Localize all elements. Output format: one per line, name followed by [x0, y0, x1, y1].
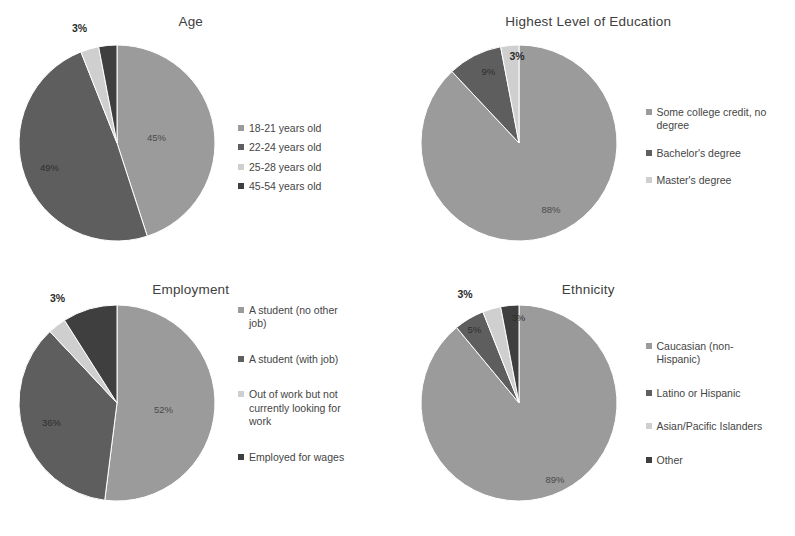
legend-item[interactable]: Bachelor's degree — [646, 147, 767, 160]
legend-label: A student (with job) — [249, 353, 338, 366]
legend-label: Caucasian (non- Hispanic) — [657, 340, 734, 367]
plot-area-education: 88% 9% 3% Some college credit, no degree… — [420, 44, 767, 242]
chart-title-age: Age — [0, 14, 390, 29]
legend-swatch-icon — [646, 343, 652, 349]
plot-area-ethnicity: 89% 5% 3% 3% Caucasian (non- Hispanic) L… — [420, 304, 763, 502]
legend-education: Some college credit, no degree Bachelor'… — [646, 106, 767, 202]
legend-ethnicity: Caucasian (non- Hispanic) Latino or Hisp… — [646, 340, 763, 487]
legend-label: Latino or Hispanic — [657, 387, 741, 400]
legend-age: 18-21 years old 22-24 years old 25-28 ye… — [238, 122, 321, 200]
pie-svg-ethnicity — [420, 304, 618, 502]
legend-label: Asian/Pacific Islanders — [657, 420, 763, 433]
legend-label: Employed for wages — [249, 451, 344, 464]
legend-swatch-icon — [238, 307, 244, 313]
legend-item[interactable]: 25-28 years old — [238, 161, 321, 174]
legend-swatch-icon — [238, 125, 244, 131]
legend-swatch-icon — [238, 183, 244, 189]
legend-item[interactable]: Other — [646, 454, 763, 467]
legend-label: Other — [657, 454, 683, 467]
legend-swatch-icon — [646, 150, 652, 156]
legend-label: 22-24 years old — [249, 141, 321, 154]
legend-label: 45-54 years old — [249, 180, 321, 193]
legend-swatch-icon — [646, 423, 652, 429]
legend-item[interactable]: Employed for wages — [238, 451, 344, 464]
legend-item[interactable]: Latino or Hispanic — [646, 387, 763, 400]
legend-swatch-icon — [238, 144, 244, 150]
pie-employment: 52% 36% 3% — [18, 304, 216, 502]
pie-slice[interactable] — [105, 305, 215, 501]
legend-item[interactable]: 22-24 years old — [238, 141, 321, 154]
plot-area-age: 45% 49% 3% 18-21 years old 22-24 years o… — [18, 44, 321, 242]
legend-item[interactable]: 18-21 years old — [238, 122, 321, 135]
legend-label: 25-28 years old — [249, 161, 321, 174]
legend-swatch-icon — [238, 391, 244, 397]
legend-label: A student (no other job) — [249, 304, 338, 331]
plot-area-employment: 52% 36% 3% A student (no other job) A st… — [18, 304, 344, 502]
chart-title-ethnicity: Ethnicity — [390, 282, 788, 297]
legend-item[interactable]: Master's degree — [646, 174, 767, 187]
legend-item[interactable]: Caucasian (non- Hispanic) — [646, 340, 763, 367]
legend-swatch-icon — [646, 109, 652, 115]
chart-panel-education: Highest Level of Education 88% 9% 3% Som… — [398, 0, 795, 268]
legend-label: Master's degree — [657, 174, 732, 187]
legend-swatch-icon — [646, 457, 652, 463]
pie-slices-education — [420, 45, 616, 241]
legend-swatch-icon — [238, 356, 244, 362]
chart-panel-ethnicity: Ethnicity 89% 5% 3% 3% Caucasian (non- H… — [398, 268, 795, 536]
legend-item[interactable]: A student (with job) — [238, 353, 344, 366]
legend-swatch-icon — [238, 454, 244, 460]
pie-svg-employment — [18, 304, 216, 502]
chart-title-education: Highest Level of Education — [390, 14, 788, 29]
pie-svg-education — [420, 44, 618, 242]
legend-label: Bachelor's degree — [657, 147, 741, 160]
legend-item[interactable]: Some college credit, no degree — [646, 106, 767, 133]
pie-slices-ethnicity — [420, 305, 616, 501]
legend-swatch-icon — [646, 390, 652, 396]
chart-panel-employment: Employment 52% 36% 3% A student (no othe… — [0, 268, 398, 536]
legend-item[interactable]: Asian/Pacific Islanders — [646, 420, 763, 433]
pie-ethnicity: 89% 5% 3% 3% — [420, 304, 618, 502]
legend-label: Out of work but not currently looking fo… — [249, 388, 341, 428]
pie-chart-grid: Age 45% 49% 3% 18-21 years old 22-24 yea… — [0, 0, 795, 536]
legend-item[interactable]: Out of work but not currently looking fo… — [238, 388, 344, 428]
pie-slices-age — [19, 45, 215, 241]
chart-title-employment: Employment — [0, 282, 390, 297]
pie-age: 45% 49% 3% — [18, 44, 216, 242]
legend-item[interactable]: A student (no other job) — [238, 304, 344, 331]
legend-swatch-icon — [238, 164, 244, 170]
legend-item[interactable]: 45-54 years old — [238, 180, 321, 193]
legend-employment: A student (no other job) A student (with… — [238, 304, 344, 464]
pie-slices-employment — [19, 305, 215, 501]
legend-swatch-icon — [646, 177, 652, 183]
pie-svg-age — [18, 44, 216, 242]
chart-panel-age: Age 45% 49% 3% 18-21 years old 22-24 yea… — [0, 0, 398, 268]
legend-label: Some college credit, no degree — [657, 106, 767, 133]
legend-label: 18-21 years old — [249, 122, 321, 135]
pie-education: 88% 9% 3% — [420, 44, 618, 242]
